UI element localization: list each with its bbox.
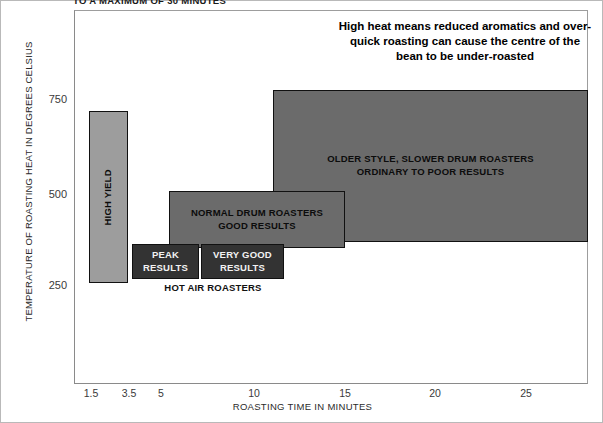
bar-normal-drum-roasters: NORMAL DRUM ROASTERS GOOD RESULTS	[169, 191, 345, 248]
high-heat-annotation: High heat means reduced aromatics and ov…	[336, 19, 594, 65]
bar-peak-label: PEAK RESULTS	[140, 249, 191, 275]
x-axis-title: ROASTING TIME IN MINUTES	[1, 401, 603, 412]
bar-peak-results: PEAK RESULTS	[132, 244, 199, 279]
x-tick-20: 20	[415, 387, 455, 399]
y-tick-750: 750	[29, 93, 67, 105]
x-tick-1-5: 1.5	[71, 387, 111, 399]
bar-older-style-label: OLDER STYLE, SLOWER DRUM ROASTERS ORDINA…	[324, 153, 537, 179]
x-tick-5: 5	[141, 387, 181, 399]
bar-very-good-results: VERY GOOD RESULTS	[201, 244, 284, 279]
bar-very-good-label: VERY GOOD RESULTS	[210, 249, 275, 275]
bar-peak-line1: PEAK	[152, 249, 179, 260]
hot-air-roasters-caption: HOT AIR ROASTERS	[123, 282, 303, 293]
x-tick-10: 10	[234, 387, 274, 399]
y-tick-500: 500	[29, 188, 67, 200]
chart-figure: TO A MAXIMUM OF 30 MINUTES TEMPERATURE O…	[0, 0, 603, 423]
x-tick-15: 15	[325, 387, 365, 399]
bar-peak-line2: RESULTS	[143, 262, 188, 273]
bar-normal-drum-line1: NORMAL DRUM ROASTERS	[191, 207, 323, 218]
bar-very-good-line1: VERY GOOD	[213, 249, 272, 260]
y-tick-250: 250	[29, 279, 67, 291]
cropped-headline: TO A MAXIMUM OF 30 MINUTES	[73, 0, 373, 4]
bar-normal-drum-line2: GOOD RESULTS	[218, 220, 296, 231]
bar-older-style-line1: OLDER STYLE, SLOWER DRUM ROASTERS	[327, 153, 534, 164]
bar-high-yield: HIGH YIELD	[89, 111, 128, 283]
bar-normal-drum-label: NORMAL DRUM ROASTERS GOOD RESULTS	[188, 207, 326, 233]
bar-very-good-line2: RESULTS	[220, 262, 265, 273]
bar-high-yield-label: HIGH YIELD	[102, 166, 115, 228]
bar-older-style-line2: ORDINARY TO POOR RESULTS	[357, 166, 505, 177]
x-tick-25: 25	[506, 387, 546, 399]
